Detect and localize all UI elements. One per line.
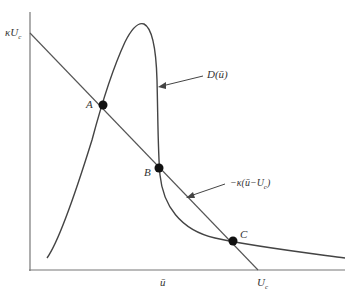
x-tick-uc: Uc: [257, 277, 268, 291]
diagram-canvas: [0, 0, 358, 299]
point-C: [229, 237, 238, 246]
line-label: −κ(ū−Uc): [230, 178, 270, 191]
curve-label: D(ū): [207, 69, 228, 80]
line-label-pointer: [190, 184, 225, 196]
curve-label-arrowhead: [158, 82, 166, 89]
line-label-arrowhead: [186, 192, 195, 198]
y-axis-label: κUc: [5, 27, 21, 41]
x-tick-ubar: ū: [160, 277, 166, 288]
point-A-label: A: [86, 99, 93, 110]
point-C-label: C: [240, 229, 247, 240]
curve-D: [47, 24, 345, 258]
point-A: [99, 101, 108, 110]
point-B-label: B: [144, 167, 151, 178]
curve-label-pointer: [162, 76, 203, 86]
point-B: [155, 164, 164, 173]
